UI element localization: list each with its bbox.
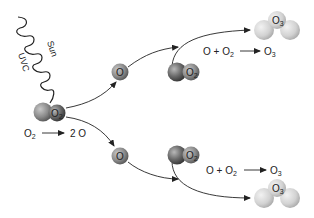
o3-molecule-top: O3 (254, 11, 300, 40)
svg-text:O: O (116, 67, 124, 78)
o-atom-bottom: O (112, 148, 129, 165)
svg-text:O: O (116, 151, 124, 162)
arrow-top-o-to-reaction (128, 47, 178, 67)
ozone-formation-diagram: Sun UVC O2 O2 2 O O O O2 O2 O + O2 (0, 0, 314, 218)
reaction-equation-bottom: O + O2 O3 (206, 165, 282, 177)
svg-text:2 O: 2 O (70, 128, 86, 139)
o3-molecule-bottom: O3 (254, 179, 300, 208)
o2-molecule-top: O2 (168, 63, 200, 82)
sun-label: Sun (45, 40, 59, 58)
svg-text:O3: O3 (270, 165, 282, 177)
o2-molecule-initial: O2 (34, 103, 66, 122)
svg-text:O + O2: O + O2 (206, 165, 237, 177)
svg-text:O + O2: O + O2 (203, 46, 234, 58)
arrow-bottom-o-to-reaction (128, 162, 178, 179)
o2-molecule-bottom: O2 (168, 146, 200, 165)
svg-text:O2: O2 (24, 128, 36, 140)
reaction-equation-top: O + O2 O3 (203, 46, 276, 58)
uvc-label: UVC (16, 52, 32, 74)
photolysis-equation: O2 2 O (24, 128, 86, 140)
o-atom-top: O (112, 64, 129, 81)
arrow-o2-to-top-o (66, 82, 116, 108)
svg-text:O3: O3 (264, 46, 276, 58)
